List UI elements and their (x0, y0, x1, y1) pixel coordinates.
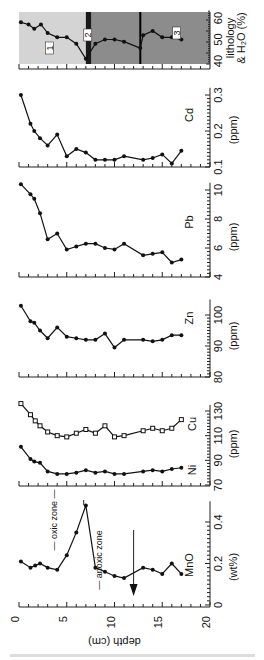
lithology-tick-label: 60 (212, 12, 224, 24)
cu-line (21, 404, 181, 437)
cu-square-marker (113, 435, 117, 439)
h2o-dot-marker (65, 35, 69, 39)
pb-dot-marker (38, 211, 42, 215)
cu-square-marker (122, 434, 126, 438)
ni-dot-marker (55, 472, 59, 476)
pb-dot-marker (160, 250, 164, 254)
cu-square-marker (141, 429, 145, 433)
mno-dot-marker (141, 566, 145, 570)
mno-tick-label: 0.2 (212, 556, 224, 571)
h2o-dot-marker (103, 38, 107, 42)
zn-dot-marker (46, 336, 50, 340)
pb-dot-marker (19, 182, 23, 186)
cu-ni-tick-label: 130 (212, 402, 224, 420)
h2o-dot-marker (93, 42, 97, 46)
mno-dot-marker (46, 566, 50, 570)
pb-dot-marker (151, 252, 155, 256)
h2o-dot-marker (32, 27, 36, 31)
caption-remnant (10, 654, 255, 657)
mno-tick-label: 0 (212, 602, 224, 608)
zone-label: 2 (83, 32, 93, 37)
cd-dot-marker (93, 158, 97, 162)
lithology-tick-label: 50 (212, 33, 224, 45)
cd-dot-marker (55, 133, 59, 137)
cu-square-marker (74, 431, 78, 435)
h2o-dot-marker (55, 35, 59, 39)
zn-unit: (ppm) (227, 322, 239, 351)
mno-dot-marker (65, 553, 69, 557)
cd-dot-marker (103, 158, 107, 162)
cu-square-marker (28, 413, 32, 417)
cu-ni-unit: (ppm) (227, 430, 239, 459)
h2o-dot-marker (46, 31, 50, 35)
depth-tick-label: 0 (9, 616, 21, 622)
ni-dot-marker (46, 469, 50, 473)
cd-dot-marker (122, 154, 126, 158)
anoxic-zone-label: — anoxic zone (94, 530, 104, 590)
mno-dot-marker (38, 562, 42, 566)
zn-dot-marker (28, 319, 32, 323)
depth-axis-label: depth (cm) (88, 636, 141, 648)
zn-dot-marker (113, 346, 117, 350)
zn-dot-marker (19, 304, 23, 308)
cd-dot-marker (74, 147, 78, 151)
zn-dot-marker (122, 338, 126, 342)
pb-dot-marker (46, 237, 50, 241)
pb-tick-label: 10 (212, 184, 224, 196)
cu-square-marker (179, 418, 183, 422)
zn-dot-marker (32, 321, 36, 325)
cd-dot-marker (151, 156, 155, 160)
h2o-dot-marker (39, 22, 43, 26)
h2o-dot-marker (141, 33, 145, 37)
pb-tick-label: 8 (212, 216, 224, 222)
pb-dot-marker (93, 242, 97, 246)
cd-line (21, 95, 181, 163)
cd-dot-marker (179, 149, 183, 153)
ni-label: Ni (186, 465, 198, 475)
cd-dot-marker (46, 143, 50, 147)
h2o-dot-marker (122, 40, 126, 44)
zn-dot-marker (179, 333, 183, 337)
h2o-dot-marker (84, 57, 88, 61)
zn-dot-marker (93, 338, 97, 342)
ni-dot-marker (103, 469, 107, 473)
cu-square-marker (55, 434, 59, 438)
zn-line (21, 306, 181, 348)
pb-dot-marker (65, 247, 69, 251)
cd-dot-marker (65, 154, 69, 158)
zn-dot-marker (74, 336, 78, 340)
zn-dot-marker (55, 325, 59, 329)
cu-square-marker (151, 426, 155, 430)
ni-dot-marker (19, 445, 23, 449)
cd-dot-marker (19, 93, 23, 97)
mno-dot-marker (113, 574, 117, 578)
mno-dot-marker (19, 559, 23, 563)
mno-dot-marker (55, 568, 59, 572)
cd-dot-marker (38, 136, 42, 140)
pb-tick-label: 4 (212, 274, 224, 280)
zone-label: 3 (172, 30, 182, 35)
depth-tick-label: 10 (105, 616, 117, 628)
oxic-zone-label: — oxic zone — (49, 489, 59, 550)
cu-square-marker (84, 428, 88, 432)
pb-dot-marker (74, 245, 78, 249)
zn-dot-marker (160, 338, 164, 342)
zn-dot-marker (170, 333, 174, 337)
cu-square-marker (38, 424, 42, 428)
cd-label: Cd (183, 108, 195, 122)
depth-tick-label: 5 (57, 616, 69, 622)
pb-dot-marker (179, 258, 183, 262)
cd-dot-marker (141, 158, 145, 162)
ni-dot-marker (65, 472, 69, 476)
ni-dot-marker (179, 466, 183, 470)
ni-dot-marker (151, 468, 155, 472)
pb-dot-marker (113, 247, 117, 251)
depth-tick-label: 15 (152, 616, 164, 628)
ni-dot-marker (141, 469, 145, 473)
cd-tick-label: 0.1 (212, 159, 224, 174)
cd-dot-marker (113, 158, 117, 162)
ni-dot-marker (113, 472, 117, 476)
mno-dot-marker (160, 572, 164, 576)
pb-label: Pb (183, 215, 195, 228)
ni-dot-marker (32, 460, 36, 464)
